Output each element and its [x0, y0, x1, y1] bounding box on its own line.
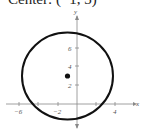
y-axis-label: y [73, 8, 78, 16]
y-tick-label: 6 [68, 45, 72, 53]
x-tick-label: −2 [53, 108, 62, 116]
center-point [65, 73, 70, 78]
x-tick-label: 4 [113, 108, 117, 116]
y-axis-down-arrow-icon [75, 124, 79, 129]
x-axis-label: x [135, 100, 140, 108]
y-tick-label: 2 [68, 82, 72, 90]
chart-plot: −6 −2 4 2 4 6 x y [0, 0, 143, 134]
y-tick-label: 4 [68, 63, 72, 71]
x-tick-label: −6 [14, 108, 23, 116]
